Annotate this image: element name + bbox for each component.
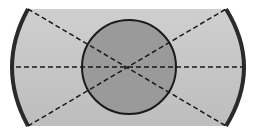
diagram-canvas — [0, 0, 255, 135]
